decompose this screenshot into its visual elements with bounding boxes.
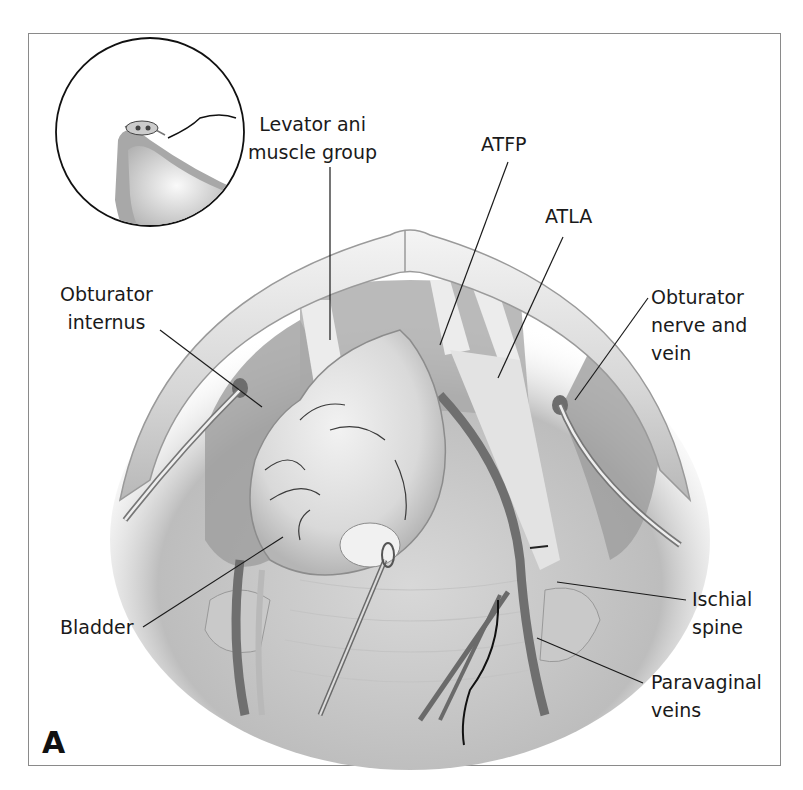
label-obturator-nerve-and-vein: Obturator nerve and vein bbox=[651, 283, 747, 367]
label-levator-ani: Levator ani muscle group bbox=[248, 110, 377, 166]
label-paravaginal-veins: Paravaginal veins bbox=[651, 668, 762, 724]
label-ischial-spine: Ischial spine bbox=[692, 585, 752, 641]
label-bladder: Bladder bbox=[60, 613, 134, 641]
label-obturator-internus: Obturator internus bbox=[60, 280, 153, 336]
label-atfp: ATFP bbox=[481, 130, 527, 158]
panel-letter: A bbox=[42, 725, 65, 760]
label-atla: ATLA bbox=[545, 202, 592, 230]
inset-detail bbox=[56, 38, 250, 255]
